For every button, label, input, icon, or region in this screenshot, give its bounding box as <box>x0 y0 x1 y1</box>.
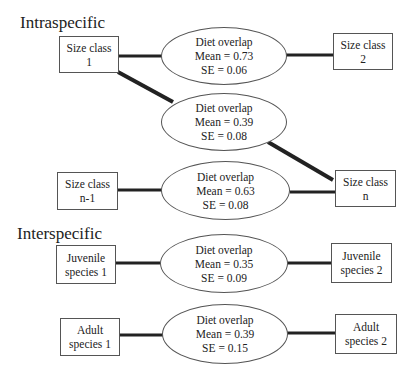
overlap-sizen1-sizen: Diet overlap Mean = 0.63 SE = 0.08 <box>161 161 290 220</box>
node-adult-species-1: Adult species 1 <box>60 318 120 356</box>
overlap-label: Diet overlap <box>163 313 287 327</box>
node-label: species 2 <box>336 334 396 348</box>
node-juvenile-species-1: Juvenile species 1 <box>56 245 116 284</box>
node-size-class-2: Size class 2 <box>333 33 393 70</box>
node-label: species 1 <box>57 265 115 279</box>
node-label: Juvenile <box>57 251 115 265</box>
heading-interspecific: Interspecific <box>17 224 102 244</box>
node-juvenile-species-2: Juvenile species 2 <box>331 243 392 283</box>
node-adult-species-2: Adult species 2 <box>335 314 397 354</box>
node-size-class-n-1: Size class n-1 <box>57 172 118 210</box>
overlap-mean: Mean = 0.63 <box>162 184 289 198</box>
overlap-label: Diet overlap <box>162 170 289 184</box>
overlap-se: SE = 0.08 <box>162 198 289 212</box>
overlap-mean: Mean = 0.39 <box>163 327 287 341</box>
node-label: Juvenile <box>332 249 391 263</box>
overlap-mean: Mean = 0.73 <box>162 49 286 63</box>
overlap-mean: Mean = 0.39 <box>162 115 286 129</box>
overlap-size1-size2: Diet overlap Mean = 0.73 SE = 0.06 <box>161 27 287 85</box>
node-label: species 1 <box>61 337 119 351</box>
overlap-label: Diet overlap <box>162 101 286 115</box>
node-label: Adult <box>61 323 119 337</box>
heading-intraspecific: Intraspecific <box>20 13 105 33</box>
overlap-se: SE = 0.15 <box>163 341 287 355</box>
node-label: n-1 <box>58 191 117 205</box>
overlap-se: SE = 0.08 <box>162 129 286 143</box>
node-label: Size class <box>60 41 118 55</box>
overlap-label: Diet overlap <box>161 243 287 257</box>
node-label: n <box>336 189 395 203</box>
overlap-se: SE = 0.09 <box>161 271 287 285</box>
node-size-class-1: Size class 1 <box>59 36 119 73</box>
overlap-label: Diet overlap <box>162 35 286 49</box>
overlap-mean: Mean = 0.35 <box>161 257 287 271</box>
overlap-size1-sizen: Diet overlap Mean = 0.39 SE = 0.08 <box>161 93 287 151</box>
overlap-juveniles: Diet overlap Mean = 0.35 SE = 0.09 <box>160 234 288 293</box>
node-size-class-n: Size class n <box>335 170 396 207</box>
node-label: Adult <box>336 320 396 334</box>
node-label: 1 <box>60 55 118 69</box>
node-label: Size class <box>334 38 392 52</box>
node-label: species 2 <box>332 263 391 277</box>
overlap-se: SE = 0.06 <box>162 63 286 77</box>
overlap-adults: Diet overlap Mean = 0.39 SE = 0.15 <box>162 304 288 364</box>
node-label: Size class <box>58 177 117 191</box>
node-label: 2 <box>334 52 392 66</box>
node-label: Size class <box>336 175 395 189</box>
